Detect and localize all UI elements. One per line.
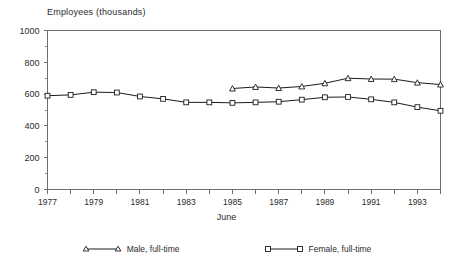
data-point-marker [161, 96, 166, 101]
data-point-marker [184, 100, 189, 105]
series-female-full-time [45, 90, 443, 113]
legend-item-male: Male, full-time [82, 244, 180, 254]
x-tick-label: 1993 [408, 197, 427, 207]
data-point-marker [68, 93, 73, 98]
data-point-marker [138, 94, 143, 99]
chart-legend: Male, full-time Female, full-time [0, 244, 453, 254]
data-point-marker [415, 105, 420, 110]
chart-plot-area: 02004006008001000 1977197919811983198519… [0, 0, 453, 270]
axis-frame [48, 31, 441, 190]
x-tick-label: 1981 [131, 197, 150, 207]
x-axis-label: June [0, 212, 453, 222]
series-male-full-time [230, 75, 444, 91]
data-point-marker [91, 90, 96, 95]
x-tick-label: 1983 [177, 197, 196, 207]
data-point-marker [45, 93, 50, 98]
data-point-marker [323, 95, 328, 100]
data-point-marker [392, 100, 397, 105]
x-axis-tick-labels: 197719791981198319851987198919911993 [38, 197, 427, 207]
square-marker-icon [264, 244, 304, 254]
data-point-marker [369, 97, 374, 102]
data-point-marker [230, 100, 235, 105]
data-point-marker [253, 100, 258, 105]
legend-label-male: Male, full-time [127, 244, 180, 254]
x-tick-label: 1987 [269, 197, 288, 207]
x-tick-label: 1985 [223, 197, 242, 207]
x-tick-label: 1989 [315, 197, 334, 207]
data-point-marker [207, 100, 212, 105]
y-tick-label: 1000 [19, 26, 39, 36]
data-point-marker [299, 97, 304, 102]
series-line [232, 78, 440, 88]
triangle-marker-icon [82, 244, 122, 254]
data-point-marker [276, 99, 281, 104]
y-tick-label: 400 [24, 121, 39, 131]
y-tick-label: 800 [24, 58, 39, 68]
chart-figure: Employees (thousands) 02004006008001000 … [0, 0, 453, 270]
x-axis-ticks [48, 190, 441, 194]
legend-item-female: Female, full-time [264, 244, 372, 254]
x-tick-label: 1991 [362, 197, 381, 207]
y-axis-tick-labels: 02004006008001000 [19, 26, 39, 195]
y-tick-label: 0 [34, 185, 39, 195]
x-tick-label: 1979 [84, 197, 103, 207]
data-point-marker [114, 90, 119, 95]
data-point-marker [346, 95, 351, 100]
x-tick-label: 1977 [38, 197, 57, 207]
series-line [48, 92, 441, 111]
data-point-marker [438, 108, 443, 113]
legend-label-female: Female, full-time [309, 244, 372, 254]
data-series-layer [45, 75, 443, 113]
y-tick-label: 600 [24, 89, 39, 99]
y-tick-label: 200 [24, 153, 39, 163]
